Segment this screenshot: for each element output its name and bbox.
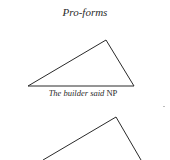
triangle-2	[43, 117, 141, 160]
scan-speck	[163, 106, 165, 107]
triangle-1-label: The builder said NP	[28, 88, 138, 98]
triangle-1	[28, 40, 134, 86]
label-phrase: The builder said	[49, 88, 105, 98]
label-node: NP	[106, 88, 117, 98]
syntax-triangles	[0, 0, 170, 160]
